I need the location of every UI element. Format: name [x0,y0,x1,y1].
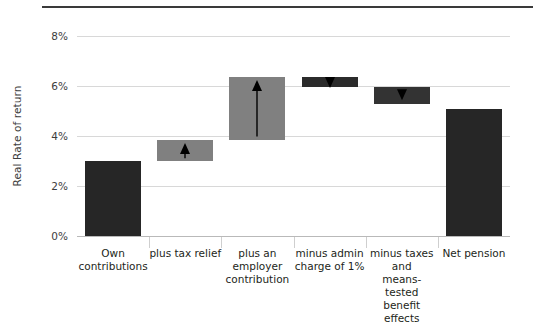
arrow-down-icon [324,80,335,84]
x-axis-label-line: plus an [221,247,293,260]
gridline [77,86,510,87]
y-axis-tick-label: 2% [51,181,68,192]
top-divider [42,6,533,8]
arrow-up-icon [252,80,263,137]
plot-area: 0%2%4%6%8% [77,36,510,236]
x-axis: Owncontributionsplus tax reliefplus anem… [77,237,510,323]
x-axis-label-line: contribution [221,273,293,286]
x-axis-category-label: minus taxesandmeans-testedbenefit effect… [366,247,438,324]
y-axis-tick-label: 0% [51,231,68,242]
x-axis-label-line: minus taxes [366,247,438,260]
bar-increase [157,140,213,161]
y-axis-tick-label: 4% [51,131,68,142]
x-axis-label-line: contributions [77,260,149,273]
x-axis-label-line: and [366,260,438,273]
y-axis-tick-label: 8% [51,31,68,42]
bar-total [85,161,141,236]
gridline [77,36,510,37]
waterfall-chart: Real Rate of return 0%2%4%6%8% Owncontri… [0,0,533,324]
x-axis-label-line: minus admin [294,247,366,260]
arrow-down-icon [396,90,407,100]
x-axis-category-label: Net pension [438,247,510,260]
bar-decrease [374,87,430,103]
x-axis-label-line: employer [221,260,293,273]
arrow-up-icon [180,143,191,158]
y-axis-tick-label: 6% [51,81,68,92]
y-axis-title-text: Real Rate of return [11,86,23,187]
x-axis-label-line: Own [77,247,149,260]
x-axis-category-label: plus anemployercontribution [221,247,293,286]
x-axis-category-label: minus admincharge of 1% [294,247,366,273]
x-axis-label-line: means-tested [366,273,438,299]
bar-increase [229,77,285,140]
x-axis-label-line: Net pension [438,247,510,260]
bar-decrease [302,77,358,87]
x-axis-label-line: charge of 1% [294,260,366,273]
x-axis-category-label: plus tax relief [149,247,221,260]
bar-total [446,109,502,237]
x-axis-label-line: benefit effects [366,299,438,324]
y-axis-title: Real Rate of return [9,36,25,236]
x-axis-label-line: plus tax relief [149,247,221,260]
x-axis-category-label: Owncontributions [77,247,149,273]
